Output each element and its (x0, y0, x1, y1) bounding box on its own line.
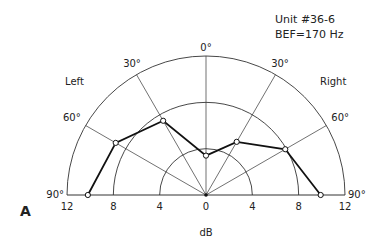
data-point-marker (318, 192, 323, 197)
grid-spoke (86, 126, 206, 196)
left-side-label: Left (65, 76, 84, 87)
data-point-marker (203, 153, 208, 158)
angle-label: 90° (348, 189, 366, 200)
radial-tick-label: 12 (339, 201, 352, 212)
radial-tick-label: 0 (203, 201, 209, 212)
angle-label: 90° (46, 189, 64, 200)
angle-label: 0° (200, 42, 211, 53)
data-point-marker (85, 192, 90, 197)
polar-chart-figure: 90°60°30°0°30°60°90°128404812 Unit #36-6… (0, 0, 389, 249)
radial-tick-label: 8 (295, 201, 301, 212)
data-point-marker (234, 139, 239, 144)
polar-grid: 90°60°30°0°30°60°90°128404812 (46, 42, 365, 212)
grid-spoke (206, 75, 276, 195)
chart-title: Unit #36-6 (275, 13, 335, 26)
radial-tick-label: 12 (61, 201, 74, 212)
grid-spoke (137, 75, 207, 195)
radial-tick-label: 8 (110, 201, 116, 212)
angle-label: 30° (123, 58, 141, 69)
data-point-marker (161, 118, 166, 123)
origin-marker (204, 193, 208, 197)
polar-chart: 90°60°30°0°30°60°90°128404812 Unit #36-6… (0, 0, 389, 249)
right-side-label: Right (320, 76, 346, 87)
data-point-marker (113, 140, 118, 145)
angle-label: 60° (63, 112, 81, 123)
angle-label: 30° (271, 58, 289, 69)
x-axis-label: dB (199, 227, 212, 238)
chart-subtitle: BEF=170 Hz (275, 28, 344, 41)
radial-tick-label: 4 (249, 201, 255, 212)
panel-label: A (20, 203, 31, 219)
radial-tick-label: 4 (156, 201, 162, 212)
angle-label: 60° (331, 112, 349, 123)
data-point-marker (283, 147, 288, 152)
grid-spoke (206, 126, 326, 196)
